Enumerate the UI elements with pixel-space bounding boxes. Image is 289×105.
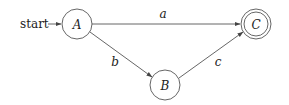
edge-label-a: a [159,7,166,21]
start-label: start [20,17,49,31]
state-a: A [62,9,92,39]
automaton-diagram: start a b c A B C [0,0,289,105]
state-a-label: A [72,18,82,32]
state-c-accepting: C [241,9,271,39]
edge-label-c: c [215,55,222,69]
state-b: B [150,70,180,100]
state-c-label: C [251,18,260,32]
state-b-label: B [160,79,170,93]
edge-b-to-c [179,32,243,78]
edge-a-to-b [90,32,152,77]
edge-label-b: b [111,55,119,69]
